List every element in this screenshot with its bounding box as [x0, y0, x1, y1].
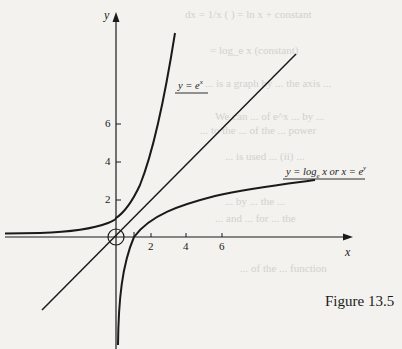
x-tick-label-4: 4	[183, 240, 189, 252]
line-y-equals-x	[42, 54, 296, 310]
figure-caption: Figure 13.5	[325, 293, 394, 310]
x-tick-label-6: 6	[219, 240, 225, 252]
y-axis-arrow-icon	[113, 12, 120, 22]
x-axis-arrow-icon	[343, 234, 353, 241]
exp-curve-label: y = ex	[178, 78, 203, 91]
x-tick-label-2: 2	[148, 240, 154, 252]
y-axis-label: y	[104, 8, 109, 23]
x-ticks	[134, 232, 222, 237]
x-axis-label: x	[345, 245, 350, 260]
y-tick-label-6: 6	[105, 117, 111, 129]
curve-exp	[5, 33, 175, 234]
axes	[5, 20, 347, 349]
y-ticks	[116, 124, 121, 200]
figure-13-5: dx = 1/x ( ) = ln x + constant = log_e x…	[0, 0, 402, 349]
log-curve-label: y = loge x or x = ey	[286, 164, 366, 180]
y-tick-label-2: 2	[105, 193, 111, 205]
curve-log	[118, 180, 315, 345]
y-tick-label-4: 4	[105, 155, 111, 167]
